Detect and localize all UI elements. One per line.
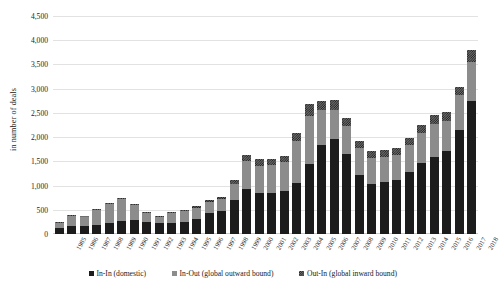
bar-segment — [330, 100, 339, 110]
legend-swatch-icon — [172, 271, 177, 276]
x-axis-tick-label: 1985 — [74, 236, 87, 251]
legend-label: Out-In (global inward bound) — [307, 269, 397, 278]
bar-segment — [305, 164, 314, 234]
bar-stack — [167, 212, 176, 234]
bar-segment — [180, 210, 189, 212]
bar-segment — [205, 213, 214, 234]
bar-stack — [380, 150, 389, 234]
bar-segment — [380, 150, 389, 156]
x-axis-tick-label: 2002 — [287, 236, 300, 251]
bar-segment — [317, 110, 326, 145]
bar-segment — [167, 223, 176, 234]
bar-segment — [155, 223, 164, 234]
bar-segment — [180, 211, 189, 222]
bar-segment — [467, 62, 476, 101]
bar-segment — [130, 220, 139, 234]
bar-segment — [342, 118, 351, 126]
x-axis-tick-label: 2006 — [337, 236, 350, 251]
bar-segment — [342, 154, 351, 234]
bar-stack — [455, 87, 464, 234]
bar-segment — [255, 166, 264, 193]
legend-swatch-icon — [89, 271, 94, 276]
x-axis-tick-label: 1996 — [212, 236, 225, 251]
bar-stack — [317, 101, 326, 234]
bar-segment — [80, 216, 89, 225]
bar-stack — [67, 215, 76, 234]
bar-segment — [117, 221, 126, 234]
x-axis-tick-label: 2001 — [274, 236, 287, 251]
bar-segment — [105, 204, 114, 222]
bar-stack — [392, 148, 401, 234]
bar-segment — [405, 172, 414, 234]
bar-segment — [155, 216, 164, 217]
bar-segment — [305, 116, 314, 164]
bar-segment — [442, 151, 451, 234]
bar-segment — [405, 145, 414, 172]
bar-segment — [117, 199, 126, 221]
y-axis-tick-label: 2,500 — [31, 108, 48, 117]
bar-stack — [430, 115, 439, 234]
bar-segment — [430, 157, 439, 235]
bar-stack — [442, 112, 451, 234]
bar-segment — [355, 175, 364, 234]
bar-segment — [92, 225, 101, 234]
bar-stack — [280, 156, 289, 234]
bar-segment — [192, 219, 201, 234]
legend-label: In-Out (global outward bound) — [180, 269, 274, 278]
x-axis-tick-label: 2000 — [262, 236, 275, 251]
bar-segment — [292, 133, 301, 141]
bar-segment — [330, 110, 339, 139]
bar-stack — [405, 138, 414, 234]
bar-stack — [130, 204, 139, 234]
bar-segment — [380, 182, 389, 234]
bar-stack — [255, 159, 264, 234]
bar-segment — [367, 184, 376, 234]
legend-item[interactable]: In-In (domestic) — [89, 269, 146, 278]
y-axis-tick-label: 500 — [37, 205, 48, 214]
bar-stack — [92, 209, 101, 234]
bar-segment — [455, 130, 464, 234]
x-axis-tick-label: 1988 — [112, 236, 125, 251]
bar-segment — [230, 200, 239, 234]
bar-segment — [317, 145, 326, 234]
bar-stack — [267, 159, 276, 234]
x-axis-tick-label: 2018 — [487, 236, 500, 251]
bar-segment — [167, 213, 176, 222]
bar-segment — [367, 151, 376, 158]
x-axis-tick-label: 1999 — [249, 236, 262, 251]
bar-stack — [230, 180, 239, 234]
bar-segment — [205, 202, 214, 213]
bar-segment — [430, 115, 439, 123]
bar-segment — [230, 184, 239, 200]
bar-segment — [217, 199, 226, 211]
bar-segment — [192, 208, 201, 220]
bar-stack — [80, 216, 89, 234]
bar-segment — [242, 189, 251, 234]
bar-segment — [142, 213, 151, 222]
x-axis-tick-label: 2010 — [387, 236, 400, 251]
bar-segment — [417, 125, 426, 133]
bar-segment — [305, 104, 314, 116]
y-axis-tick-label: 1,500 — [31, 157, 48, 166]
bar-segment — [330, 139, 339, 234]
bar-stack — [142, 212, 151, 234]
x-axis-tick-label: 1998 — [237, 236, 250, 251]
x-axis-tick-label: 2004 — [312, 236, 325, 251]
bar-segment — [417, 163, 426, 234]
bar-segment — [392, 180, 401, 234]
bar-stack — [417, 125, 426, 234]
bar-segment — [317, 101, 326, 110]
x-axis-tick-label: 2013 — [424, 236, 437, 251]
legend-item[interactable]: Out-In (global inward bound) — [299, 269, 397, 278]
y-axis-tick-label: 2,000 — [31, 133, 48, 142]
legend-item[interactable]: In-Out (global outward bound) — [172, 269, 273, 278]
bar-segment — [192, 206, 201, 207]
bar-stack — [367, 151, 376, 234]
y-axis-tick-label: 0 — [44, 230, 48, 239]
bar-segment — [455, 95, 464, 130]
bar-stack — [105, 203, 114, 234]
bar-segment — [267, 193, 276, 234]
bar-segment — [130, 205, 139, 220]
bar-stack — [117, 198, 126, 234]
